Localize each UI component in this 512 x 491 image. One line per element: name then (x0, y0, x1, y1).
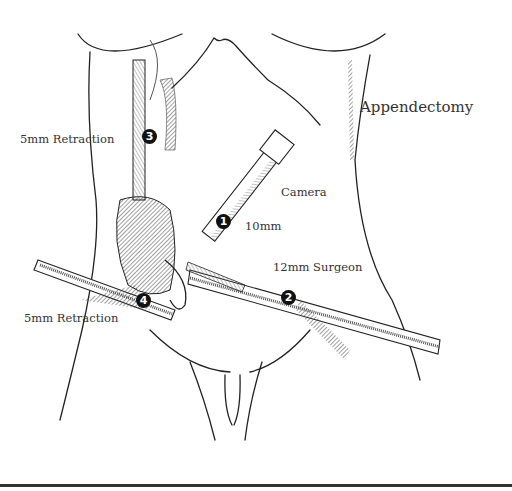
figure-title: Appendectomy (360, 98, 473, 116)
tissue-mass (116, 197, 175, 294)
chest-left-curve (78, 34, 182, 51)
sternum-line (172, 38, 320, 125)
chest-right-curve (272, 34, 385, 51)
port-1-camera-label: Camera (281, 185, 327, 199)
port-4-badge: 4 (136, 293, 151, 308)
bottom-rule (0, 484, 512, 487)
port-1-badge: 1 (216, 214, 231, 229)
right-thigh (245, 362, 262, 440)
appendectomy-illustration (0, 0, 512, 491)
port-2-badge: 2 (281, 290, 296, 305)
port-2-label: 12mm Surgeon (273, 260, 362, 274)
port-4-label: 5mm Retraction (24, 311, 118, 325)
left-thigh (190, 362, 215, 440)
port-1-size-label: 10mm (245, 219, 281, 233)
port-3-badge: 3 (142, 129, 157, 144)
instrument-2 (186, 262, 440, 354)
port-3-label: 5mm Retraction (20, 132, 114, 146)
right-inguinal-fold (250, 330, 310, 372)
left-flank (60, 52, 97, 420)
left-inguinal-fold (150, 330, 230, 372)
